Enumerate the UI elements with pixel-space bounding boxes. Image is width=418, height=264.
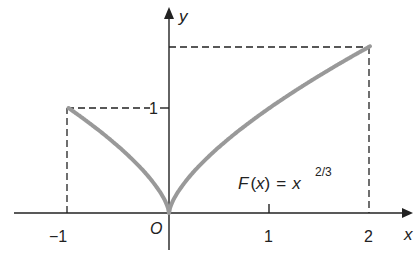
y-axis-label: y <box>178 7 189 26</box>
tick-label-y-1: 1 <box>149 100 158 117</box>
tick-label-x-neg1: −1 <box>49 228 67 245</box>
origin-label: O <box>150 220 162 237</box>
svg-text:F(x)=x: F(x)=x <box>238 174 301 193</box>
x-axis-label: x <box>403 225 413 244</box>
tick-label-x-1: 1 <box>264 228 273 245</box>
curve-x-two-thirds <box>69 46 371 213</box>
plot-area: y x O −1 1 2 1 F(x)=x 2/3 <box>0 0 418 264</box>
x-axis-arrow-icon <box>402 208 413 218</box>
function-name: F <box>238 174 250 193</box>
y-axis-arrow-icon <box>164 7 174 19</box>
function-label: F(x)=x 2/3 <box>238 165 332 193</box>
function-base: x <box>291 174 301 193</box>
function-exponent: 2/3 <box>315 165 332 179</box>
function-arg: x <box>255 174 265 193</box>
axes <box>14 14 406 250</box>
tick-label-x-2: 2 <box>364 228 373 245</box>
function-graph: y x O −1 1 2 1 F(x)=x 2/3 <box>0 0 418 264</box>
paren-close: ) <box>265 174 271 193</box>
equals-sign: = <box>276 174 286 193</box>
